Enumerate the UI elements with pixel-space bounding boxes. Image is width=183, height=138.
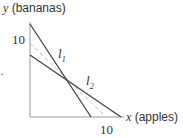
line-l1: [30, 24, 91, 117]
stray-mark: •: [1, 71, 3, 77]
y-tick-10: 10: [12, 33, 25, 46]
x-axis-label: x (apples): [126, 111, 178, 123]
l2-label: l2: [86, 74, 94, 91]
x-tick-10: 10: [100, 123, 113, 136]
y-axis-label: y (bananas): [3, 2, 66, 14]
l1-label: l1: [58, 47, 66, 64]
line-l2: [30, 55, 121, 117]
dashed-budget-line: [30, 43, 106, 117]
